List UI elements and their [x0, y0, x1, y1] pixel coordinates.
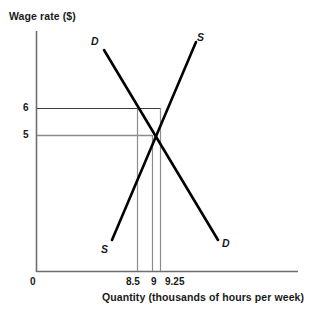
demand-curve-label-top: D: [91, 36, 99, 47]
x-axis-tick-label-9-25: 9.25: [165, 277, 184, 287]
x-axis-title: Quantity (thousands of hours per week): [102, 292, 304, 303]
wage-supply-demand-chart: Wage rate ($) Quantity (thousands of hou…: [0, 0, 311, 315]
supply-curve-label-bottom: S: [101, 244, 108, 255]
demand-curve-label-bottom: D: [222, 238, 230, 249]
chart-canvas: [0, 0, 311, 315]
y-axis-tick-label-5: 5: [23, 130, 29, 140]
x-axis-tick-label-9: 9: [151, 277, 157, 287]
supply-curve: [112, 42, 196, 240]
y-axis-tick-label-6: 6: [23, 103, 29, 113]
origin-label: 0: [30, 277, 36, 287]
y-axis-title: Wage rate ($): [9, 11, 76, 22]
x-axis-tick-label-8-5: 8.5: [126, 277, 140, 287]
supply-curve-label-top: S: [197, 32, 204, 43]
